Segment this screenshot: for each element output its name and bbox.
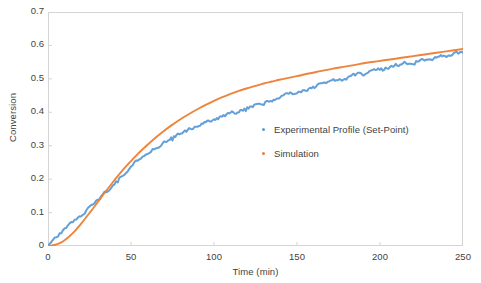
x-tick-label: 200 (358, 251, 402, 262)
x-tick-label: 100 (192, 251, 236, 262)
y-tick-label: 0.1 (4, 206, 44, 217)
legend-item-simulation[interactable]: Simulation (262, 144, 452, 162)
legend-marker-experimental-icon (262, 128, 265, 131)
y-axis-tick-labels: 00.10.20.30.40.50.60.7 (0, 0, 44, 283)
legend-label-experimental: Experimental Profile (Set-Point) (274, 124, 409, 135)
y-tick-label: 0.2 (4, 172, 44, 183)
y-tick-label: 0.4 (4, 105, 44, 116)
y-tick-label: 0.5 (4, 72, 44, 83)
legend-label-simulation: Simulation (274, 148, 319, 159)
x-tick-label: 50 (109, 251, 153, 262)
y-tick-label: 0.7 (4, 5, 44, 16)
x-tick-label: 250 (441, 251, 481, 262)
legend-marker-simulation-icon (262, 152, 265, 155)
x-axis-tick-labels: 050100150200250 (0, 251, 481, 267)
x-axis-label: Time (min) (48, 266, 463, 277)
chart-legend: Experimental Profile (Set-Point) Simulat… (262, 120, 452, 168)
x-tick-label: 0 (26, 251, 70, 262)
x-tick-label: 150 (275, 251, 319, 262)
legend-item-experimental[interactable]: Experimental Profile (Set-Point) (262, 120, 452, 138)
y-tick-label: 0 (4, 239, 44, 250)
y-tick-label: 0.3 (4, 139, 44, 150)
chart-figure: Conversion 00.10.20.30.40.50.60.7 050100… (0, 0, 481, 283)
y-tick-label: 0.6 (4, 38, 44, 49)
